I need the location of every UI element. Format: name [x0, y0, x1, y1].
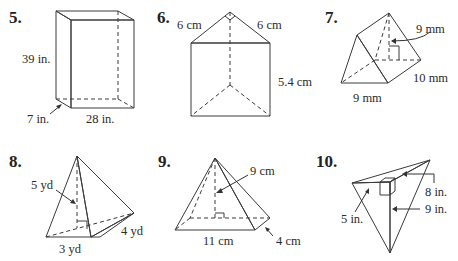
label-left-leg: 6 cm [177, 18, 202, 32]
label-base: 9 mm [353, 91, 382, 105]
label-height: 9 cm [250, 164, 275, 178]
label-length: 10 mm [413, 71, 448, 85]
label-height: 5.4 cm [278, 75, 312, 89]
problem-9-rectangular-pyramid: 9. 9 cm 11 cm 4 cm [158, 152, 301, 248]
label-base-side: 8 in. [425, 185, 447, 199]
label-height: 9 in. [425, 202, 447, 216]
problem-5-rectangular-prism: 5. 39 in. 7 in. 28 in. [9, 8, 134, 126]
label-other: 5 in. [341, 212, 363, 226]
problem-8-triangular-pyramid: 8. 5 yd 3 yd 4 yd [9, 152, 144, 256]
prism-side-face [56, 11, 71, 108]
geometry-figures-sheet: 5. 39 in. 7 in. 28 in. 6. 6 cm 6 cm 5.4 … [0, 0, 458, 261]
prism-front-face [191, 43, 270, 116]
prism-front-face [71, 20, 134, 108]
problem-7-triangular-prism: 7. 9 mm 10 mm 9 mm [325, 8, 448, 105]
label-depth: 7 in. [27, 112, 49, 126]
label-width: 28 in. [86, 112, 114, 126]
label-base-length: 11 cm [203, 234, 234, 248]
problem-number-7: 7. [325, 8, 338, 27]
pyramid-top-face [352, 160, 430, 183]
label-base-width: 4 cm [276, 234, 301, 248]
label-right-leg: 6 cm [257, 18, 282, 32]
problem-number-6: 6. [157, 8, 170, 27]
label-base-leg-b: 4 yd [121, 224, 144, 238]
problem-number-9: 9. [158, 152, 171, 171]
problem-number-5: 5. [9, 8, 22, 27]
problem-6-triangular-prism: 6. 6 cm 6 cm 5.4 cm [157, 8, 312, 116]
prism-top-face [56, 11, 134, 20]
problem-number-10: 10. [316, 152, 337, 171]
problem-number-8: 8. [9, 152, 22, 171]
label-height: 39 in. [22, 52, 50, 66]
problem-10-triangular-pyramid: 10. 8 in. 9 in. 5 in. [316, 152, 447, 253]
label-height: 5 yd [31, 178, 54, 192]
label-triangle-height: 9 mm [416, 22, 445, 36]
label-base-leg-a: 3 yd [59, 242, 82, 256]
pyramid-front-face [46, 156, 91, 237]
prism-front-triangle [341, 35, 388, 83]
